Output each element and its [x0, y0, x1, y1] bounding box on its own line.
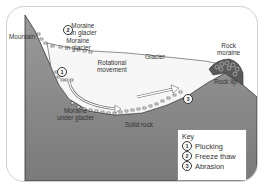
label-glacier: Glacier	[145, 53, 165, 60]
key-number: 3	[182, 161, 192, 171]
key-number: 1	[182, 141, 192, 151]
marker-freeze-thaw: 2	[63, 25, 73, 35]
key-label: Plucking	[195, 142, 223, 151]
label-moraine-on-glacier: Moraineon glacier	[69, 22, 97, 36]
label-rotational-movement: Rotationalmovement	[97, 59, 127, 73]
key-label: Abrasion	[195, 162, 224, 171]
key-title: Key	[182, 133, 242, 141]
key-item-plucking: 1 Plucking	[182, 141, 242, 151]
key-box: Key 1 Plucking 2 Freeze thaw 3 Abrasion	[177, 129, 247, 181]
label-mountain: Mountain	[9, 33, 35, 40]
label-moraine-in-glacier: Morainein glacier	[65, 37, 91, 51]
marker-plucking: 1	[57, 67, 67, 77]
diagram-card: Moraineon glacier Mountain Morainein gla…	[6, 6, 258, 182]
key-number: 2	[182, 151, 192, 161]
label-solid-rock: Solid rock	[125, 121, 153, 128]
label-moraine-under-glacier: Moraineunder glacier	[57, 107, 94, 121]
key-item-abrasion: 3 Abrasion	[182, 161, 242, 171]
key-label: Freeze thaw	[195, 152, 236, 161]
marker-abrasion: 3	[183, 94, 193, 104]
label-rock-lip: Rock lip	[214, 78, 237, 85]
label-rock-moraine: Rockmoraine	[217, 42, 240, 56]
key-item-freeze-thaw: 2 Freeze thaw	[182, 151, 242, 161]
